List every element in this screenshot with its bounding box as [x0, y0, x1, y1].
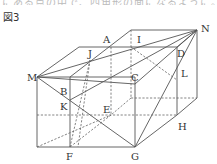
label-b: B: [60, 86, 67, 97]
label-j: J: [87, 48, 92, 59]
label-e: E: [103, 104, 110, 115]
label-g: G: [131, 151, 139, 162]
vertex-labels: A B C D E F G H I J K L M N: [27, 23, 210, 162]
label-d: D: [177, 48, 185, 59]
label-k: K: [60, 101, 68, 112]
label-f: F: [66, 151, 73, 162]
cuboid-diagram: A B C D E F G H I J K L M N: [0, 0, 217, 164]
label-c: C: [131, 72, 139, 83]
label-l: L: [181, 68, 188, 79]
label-n: N: [201, 23, 210, 34]
label-h: H: [178, 121, 187, 132]
label-i: I: [137, 34, 141, 45]
label-a: A: [102, 34, 111, 45]
label-m: M: [27, 72, 37, 83]
